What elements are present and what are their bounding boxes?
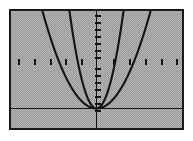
graph-canvas [11,11,182,128]
screenshot-root [0,0,193,141]
graph-plot-frame [9,9,184,130]
x-axis-ticks [19,59,177,65]
